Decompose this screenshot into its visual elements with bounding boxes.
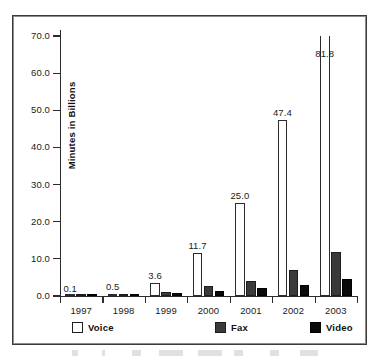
legend-swatch-video-icon: [310, 322, 321, 333]
y-tick-label: 20.0: [31, 216, 50, 227]
y-tick-label: 40.0: [31, 141, 50, 152]
bar-group: [65, 36, 97, 296]
legend-item-fax[interactable]: Fax: [215, 322, 248, 333]
bar-voice-1999: [150, 283, 160, 296]
data-label-voice-1998: 0.5: [88, 281, 138, 292]
y-tick-label: 50.0: [31, 104, 50, 115]
x-tick-mark: [60, 296, 61, 303]
bar-voice-2003: [320, 36, 330, 296]
x-tick-mark: [357, 296, 358, 303]
bar-video-1999: [172, 293, 182, 296]
x-tick-mark: [187, 296, 188, 303]
y-tick-label: 10.0: [31, 253, 50, 264]
bar-group: [278, 36, 310, 296]
data-label-voice-2003: 81.8: [300, 48, 350, 59]
legend-swatch-voice-icon: [72, 322, 83, 333]
bar-voice-1998: [108, 294, 118, 296]
cut-off-caption-text: [60, 350, 360, 356]
legend-label: Voice: [88, 322, 114, 333]
data-label-voice-2000: 11.7: [173, 240, 223, 251]
legend-label: Fax: [231, 322, 248, 333]
y-tick-label: 60.0: [31, 67, 50, 78]
bar-group: [193, 36, 225, 296]
bar-fax-2002: [289, 270, 299, 296]
x-tick-mark: [145, 296, 146, 303]
y-tick-label: 30.0: [31, 179, 50, 190]
x-tick-mark: [315, 296, 316, 303]
chart-legend: VoiceFaxVideo: [60, 322, 357, 340]
legend-label: Video: [326, 322, 353, 333]
x-tick-mark: [102, 296, 103, 303]
bar-voice-2000: [193, 253, 203, 296]
bar-voice-1997: [65, 294, 75, 296]
bar-fax-1997: [76, 294, 86, 296]
bar-group: [150, 36, 182, 296]
x-tick-mark: [230, 296, 231, 303]
data-label-voice-1999: 3.6: [130, 270, 180, 281]
bar-fax-2003: [331, 252, 341, 296]
bar-group: [320, 36, 352, 296]
x-tick-mark: [272, 296, 273, 303]
legend-swatch-fax-icon: [215, 322, 226, 333]
bar-video-2002: [300, 285, 310, 297]
y-tick-label: 70.0: [31, 30, 50, 41]
bar-video-1997: [87, 294, 97, 296]
bar-video-2001: [257, 288, 267, 296]
bar-voice-2001: [235, 203, 245, 296]
bar-fax-2000: [204, 286, 214, 296]
bar-video-2003: [342, 279, 352, 296]
bar-group: [108, 36, 140, 296]
bar-video-2000: [215, 291, 225, 296]
bar-fax-1998: [119, 294, 129, 296]
legend-item-voice[interactable]: Voice: [72, 322, 114, 333]
bar-video-1998: [130, 294, 140, 296]
bar-voice-2002: [278, 120, 288, 296]
bar-fax-1999: [161, 292, 171, 296]
x-axis-category-label: 2003: [311, 305, 361, 316]
plot-bars-area: [60, 36, 357, 296]
legend-item-video[interactable]: Video: [310, 322, 353, 333]
bar-fax-2001: [246, 281, 256, 296]
data-label-voice-2002: 47.4: [257, 107, 307, 118]
bar-group: [235, 36, 267, 296]
figure: Minutes in Billions 0.010.020.030.040.05…: [0, 0, 380, 356]
data-label-voice-2001: 25.0: [215, 190, 265, 201]
